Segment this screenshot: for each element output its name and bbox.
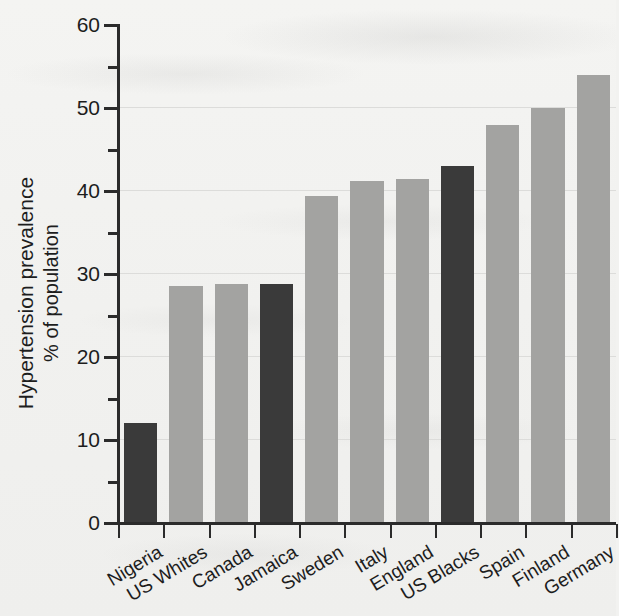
x-tick-11 bbox=[616, 524, 618, 538]
y-axis-title: Hypertension prevalence % of population bbox=[13, 113, 63, 473]
y-axis-title-line1: Hypertension prevalence bbox=[13, 113, 39, 473]
y-axis-title-line2: % of population bbox=[39, 113, 63, 473]
